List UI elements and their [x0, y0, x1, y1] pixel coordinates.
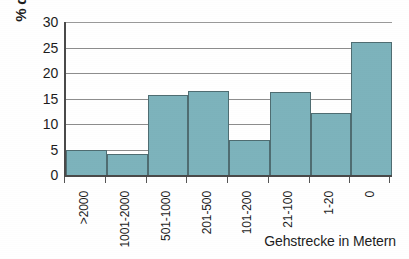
bar-slot — [351, 22, 392, 175]
y-axis-tick-label: 10 — [30, 116, 58, 132]
x-axis-tick-label: 501-1000 — [159, 191, 173, 253]
x-axis-tick-mark — [64, 177, 65, 183]
y-axis-title: % der Patienten — [10, 0, 32, 44]
x-axis-tick-label: >2000 — [77, 191, 91, 253]
bar — [311, 113, 352, 175]
bar-slot — [270, 22, 311, 175]
bar-slot — [311, 22, 352, 175]
bar — [66, 150, 107, 176]
x-axis-label-cell: 101-200 — [227, 184, 268, 246]
x-axis-tick-marks — [64, 177, 390, 183]
x-axis-title: Gehstrecke in Metern — [264, 232, 396, 250]
y-axis-tick-label: 5 — [30, 142, 58, 158]
x-axis-tick-mark-end — [389, 177, 390, 183]
x-axis-tick-cell — [309, 177, 350, 183]
bar — [188, 91, 229, 175]
y-axis-tick-label: 25 — [30, 40, 58, 56]
x-axis-tick-label: 1001-2000 — [118, 191, 132, 253]
bar — [229, 140, 270, 175]
x-axis-tick-cell — [64, 177, 105, 183]
y-axis-tick-label: 20 — [30, 65, 58, 81]
bar — [107, 154, 148, 175]
bar — [270, 92, 311, 175]
x-axis-label-cell: >2000 — [64, 184, 105, 246]
y-axis-tick-label: 15 — [30, 91, 58, 107]
x-axis-tick-mark — [349, 177, 350, 183]
bar-slot — [66, 22, 107, 175]
x-axis-tick-mark — [105, 177, 106, 183]
x-axis-tick-mark — [146, 177, 147, 183]
x-axis-tick-cell — [146, 177, 187, 183]
bar-slot — [229, 22, 270, 175]
y-axis-tick-labels: 051015202530 — [30, 14, 58, 182]
x-axis-tick-cell — [186, 177, 227, 183]
x-axis-tick-cell — [268, 177, 309, 183]
x-axis-label-cell: 501-1000 — [146, 184, 187, 246]
x-axis-tick-mark — [268, 177, 269, 183]
bar — [148, 95, 189, 175]
x-axis-tick-mark — [186, 177, 187, 183]
x-axis-label-cell: 201-500 — [186, 184, 227, 246]
bar-chart: % der Patienten 051015202530 >20001001-2… — [0, 0, 409, 259]
y-axis-tick-label: 0 — [30, 167, 58, 183]
bar-series — [66, 22, 392, 175]
x-axis-label-cell: 1001-2000 — [105, 184, 146, 246]
x-axis-tick-mark — [309, 177, 310, 183]
bar-slot — [188, 22, 229, 175]
x-axis-tick-label: 101-200 — [240, 191, 254, 253]
x-axis-tick-cell — [105, 177, 146, 183]
x-axis-tick-mark — [227, 177, 228, 183]
bar — [351, 42, 392, 175]
x-axis-tick-label: 201-500 — [200, 191, 214, 253]
plot-area — [64, 22, 392, 177]
bar-slot — [148, 22, 189, 175]
x-axis-tick-cell — [349, 177, 390, 183]
bar-slot — [107, 22, 148, 175]
x-axis-tick-cell — [227, 177, 268, 183]
y-axis-tick-label: 30 — [30, 14, 58, 30]
